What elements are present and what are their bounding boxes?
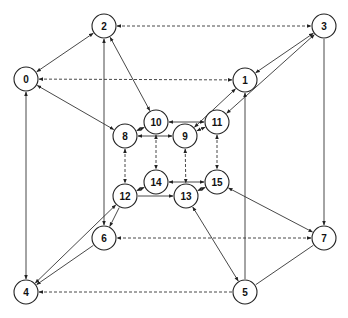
node-label: 0 [23,74,29,85]
edge-8-10 [137,127,144,130]
node-10: 10 [144,110,168,134]
edge-12-6 [110,208,119,227]
node-3: 3 [312,14,336,38]
node-label: 15 [211,177,223,188]
node-6: 6 [92,226,116,250]
node-label: 5 [242,287,248,298]
node-label: 2 [101,21,107,32]
node-14: 14 [144,170,168,194]
node-label: 8 [122,131,128,142]
edge-layer [26,26,324,292]
edge-13-5 [193,207,238,281]
edge-1-0 [39,79,232,80]
edge-15-7 [229,188,313,232]
node-label: 6 [101,233,107,244]
edge-2-10 [110,37,150,110]
edge-9-13 [185,149,186,183]
node-label: 9 [182,131,188,142]
node-4: 4 [14,280,38,304]
node-label: 3 [321,21,327,32]
node-9: 9 [173,124,197,148]
node-7: 7 [312,226,336,250]
edge-12-14 [137,187,144,190]
edge-6-4 [37,245,94,284]
hypercube-diagram: 0123456789101112131415 [0,0,348,318]
node-2: 2 [92,14,116,38]
node-label: 7 [321,233,327,244]
node-11: 11 [205,110,229,134]
edge-13-15 [198,187,205,190]
node-12: 12 [113,184,137,208]
node-label: 1 [242,75,248,86]
node-0: 0 [14,67,38,91]
node-label: 4 [23,287,29,298]
node-label: 13 [180,191,192,202]
node-8: 8 [113,124,137,148]
edge-9-11 [197,127,205,131]
node-label: 14 [150,177,162,188]
edge-5-7 [256,245,314,284]
node-13: 13 [174,184,198,208]
node-15: 15 [205,170,229,194]
node-label: 11 [212,117,223,128]
edge-0-2 [37,33,93,71]
node-5: 5 [233,280,257,304]
node-1: 1 [233,68,257,92]
edge-3-1 [256,33,314,72]
node-layer: 0123456789101112131415 [14,14,336,304]
edge-0-8 [37,86,113,130]
node-label: 10 [150,117,162,128]
node-label: 12 [119,191,131,202]
